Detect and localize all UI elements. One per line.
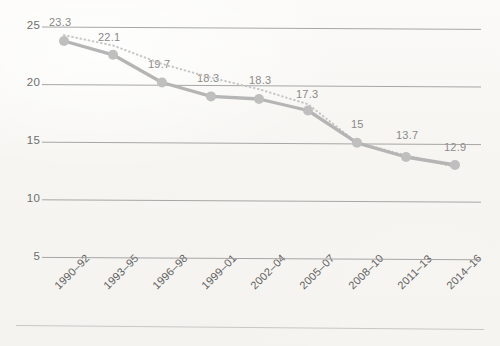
- series-markers: [59, 36, 460, 170]
- chart-page: 25 20 15 10 5 1990–92 1993–95 1996–98 19…: [0, 0, 500, 346]
- data-point-1: [108, 50, 118, 60]
- gridline-20: [42, 85, 481, 87]
- data-point-5: [303, 106, 313, 116]
- scan-edge-line: [16, 326, 484, 330]
- data-point-2: [157, 78, 167, 88]
- data-point-3: [206, 91, 216, 101]
- data-point-0: [59, 36, 69, 46]
- data-point-6: [352, 138, 362, 148]
- gridline-15: [42, 142, 481, 144]
- gridline-5: [42, 257, 481, 259]
- gridline-25: [42, 27, 481, 29]
- chart-plot-area: [0, 0, 500, 346]
- data-point-7: [401, 152, 411, 162]
- gridlines: [42, 27, 481, 260]
- data-point-8: [450, 160, 460, 170]
- gridline-10: [42, 200, 481, 202]
- data-point-4: [254, 94, 264, 104]
